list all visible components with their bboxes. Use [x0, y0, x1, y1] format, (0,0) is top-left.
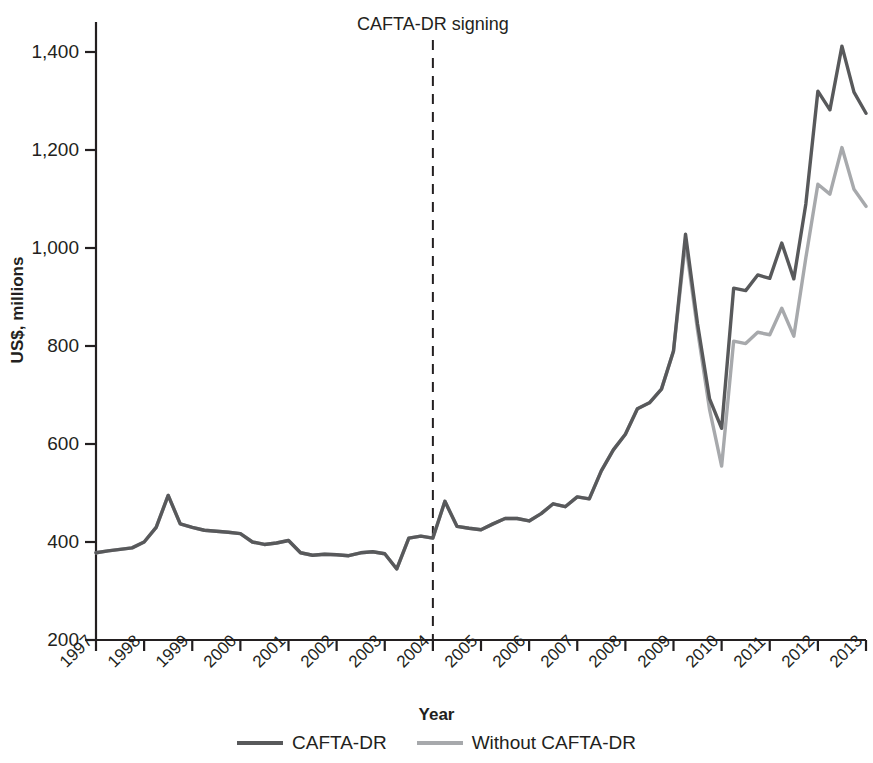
series-line-cafta-dr: [96, 46, 866, 569]
y-axis-tick-label: 1,400: [7, 41, 79, 63]
series-line-without-cafta-dr: [96, 148, 866, 569]
chart-legend: CAFTA-DRWithout CAFTA-DR: [0, 732, 873, 754]
legend-label: Without CAFTA-DR: [472, 732, 636, 754]
legend-line-swatch: [417, 741, 463, 745]
y-axis-tick-label: 600: [7, 433, 79, 455]
annotation-label: CAFTA-DR signing: [357, 14, 509, 35]
x-axis-title: Year: [0, 705, 873, 725]
axis-spine: [96, 22, 866, 640]
y-axis-tick-label: 400: [7, 531, 79, 553]
legend-label: CAFTA-DR: [292, 732, 387, 754]
y-axis-tick-label: 1,200: [7, 139, 79, 161]
legend-line-swatch: [237, 741, 283, 745]
legend-item: CAFTA-DR: [237, 732, 387, 754]
chart-figure: US$, millions 2004006008001,0001,2001,40…: [0, 0, 873, 763]
y-axis-tick-label: 1,000: [7, 237, 79, 259]
legend-item: Without CAFTA-DR: [417, 732, 636, 754]
y-axis-tick-label: 800: [7, 335, 79, 357]
